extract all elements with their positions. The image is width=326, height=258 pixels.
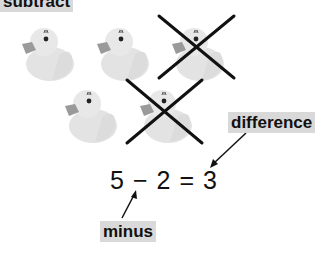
arrow-to-difference (210, 133, 246, 168)
difference-label: difference (228, 112, 315, 133)
equation-left: 5 (110, 166, 125, 194)
equation-equals: = (179, 166, 195, 194)
equation-operator: − (133, 166, 149, 194)
equation: 5−2=3 (110, 166, 226, 195)
duck-3-crossed (172, 28, 224, 81)
subtract-label: subtract (0, 0, 73, 12)
minus-label: minus (100, 221, 156, 242)
duck-2 (97, 28, 149, 81)
duck-4 (65, 90, 117, 143)
equation-right: 2 (157, 166, 172, 194)
duck-1 (22, 28, 74, 81)
equation-result: 3 (203, 166, 218, 194)
